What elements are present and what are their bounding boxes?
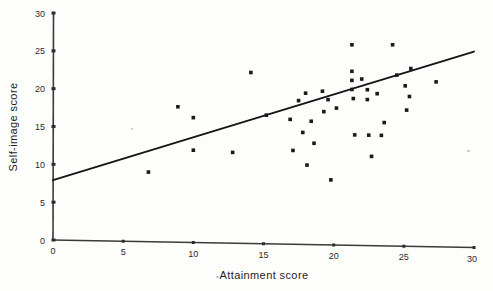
- data-points-group: [147, 43, 438, 182]
- x-tick-mark: [122, 240, 125, 243]
- data-point: [326, 98, 330, 102]
- x-tick-label: 15: [258, 250, 268, 260]
- data-point: [366, 88, 370, 92]
- data-point: [291, 149, 295, 153]
- y-tick-mark: [52, 239, 56, 242]
- y-tick-mark: [52, 125, 56, 128]
- x-tick-label: 20: [329, 251, 339, 261]
- data-point: [352, 97, 356, 101]
- data-point: [176, 105, 180, 109]
- x-axis-title: Attainment score: [220, 269, 309, 281]
- data-point: [408, 95, 412, 99]
- x-tick-mark: [332, 244, 335, 247]
- data-point: [265, 113, 269, 117]
- data-point: [301, 131, 305, 135]
- data-point: [370, 155, 374, 159]
- data-point: [405, 108, 409, 112]
- data-point: [382, 121, 386, 125]
- data-point: [434, 80, 438, 84]
- data-point: [403, 84, 407, 88]
- y-tick-mark: [52, 12, 56, 15]
- x-tick-label: 25: [399, 252, 409, 262]
- y-tick-mark: [52, 201, 56, 204]
- scatter-plot-figure: 051015202530 051015202530 Attainment sco…: [0, 0, 493, 291]
- data-point: [395, 73, 399, 77]
- data-point: [312, 141, 316, 145]
- y-axis-title: Self-image score: [7, 83, 19, 172]
- x-tick-mark: [262, 242, 265, 245]
- data-point: [249, 71, 253, 75]
- data-point: [288, 118, 292, 122]
- data-point: [329, 178, 333, 182]
- data-point: [321, 89, 325, 93]
- data-point: [391, 43, 395, 47]
- y-tick-label: 5: [40, 198, 45, 208]
- chart-canvas: 051015202530 051015202530 Attainment sco…: [0, 0, 493, 291]
- x-tick-label: 30: [467, 254, 477, 264]
- data-point: [367, 133, 371, 137]
- y-tick-label: 25: [35, 46, 45, 56]
- data-point: [305, 163, 309, 167]
- data-point: [231, 151, 235, 155]
- data-point: [192, 116, 196, 120]
- data-point: [380, 134, 384, 138]
- data-point: [350, 79, 354, 83]
- y-tick-label: 20: [35, 84, 45, 94]
- y-tick-label: 10: [35, 160, 45, 170]
- data-point: [350, 43, 354, 47]
- x-tick-label: 5: [121, 247, 126, 257]
- x-tick-label: 0: [50, 246, 55, 256]
- data-point: [360, 77, 364, 81]
- x-axis-ticks: 051015202530: [50, 240, 477, 264]
- data-point: [366, 98, 370, 102]
- data-point: [409, 67, 413, 71]
- x-tick-mark: [402, 245, 405, 248]
- data-point: [304, 91, 308, 95]
- axes-group: [53, 13, 474, 248]
- data-point: [375, 92, 379, 96]
- scan-artifacts: [131, 128, 470, 278]
- data-point: [350, 69, 354, 73]
- data-point: [322, 110, 326, 114]
- data-point: [353, 133, 357, 137]
- data-point: [147, 170, 151, 174]
- x-tick-mark: [192, 241, 195, 244]
- data-point: [297, 99, 301, 103]
- data-point: [350, 88, 354, 92]
- data-point: [335, 106, 339, 110]
- y-tick-label: 15: [35, 122, 45, 132]
- regression-line: [53, 52, 474, 181]
- y-tick-label: 0: [40, 236, 45, 246]
- y-tick-mark: [52, 87, 56, 90]
- y-tick-mark: [52, 163, 56, 166]
- x-tick-mark: [473, 246, 476, 249]
- data-point: [192, 148, 196, 152]
- x-tick-label: 10: [188, 249, 198, 259]
- y-tick-mark: [52, 49, 56, 52]
- data-point: [309, 119, 313, 123]
- y-tick-label: 30: [35, 9, 45, 19]
